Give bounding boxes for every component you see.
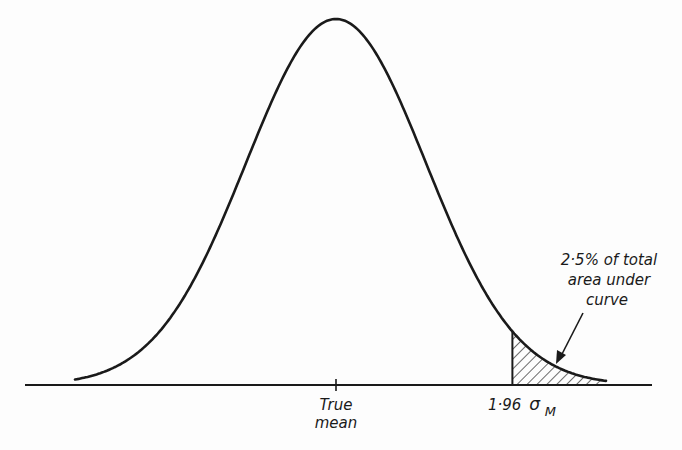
sigma-symbol: σ [529, 394, 541, 414]
normal-curve-chart: True mean 1·96 σ M 2·5% of total area un… [0, 0, 682, 450]
annotation-arrow [556, 313, 583, 364]
sigma-subscript: M [545, 404, 556, 419]
normal-curve [75, 19, 606, 381]
annotation-line-3: curve [586, 291, 628, 309]
tick-label-true: True [320, 396, 353, 414]
annotation-line-1: 2·5% of total [561, 251, 658, 269]
critical-value-number: 1·96 [488, 396, 521, 414]
tick-label-critical: 1·96 σ M [488, 394, 556, 419]
annotation-line-2: area under [568, 271, 651, 289]
tick-label-mean: mean [315, 414, 358, 432]
